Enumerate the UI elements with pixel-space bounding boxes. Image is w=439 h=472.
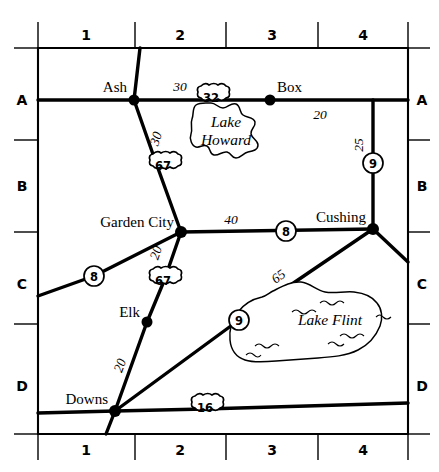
route-number-9-south: 9 bbox=[235, 314, 243, 328]
grid-row-label-right-d: D bbox=[416, 378, 428, 394]
distance-label-east-route9: 25 bbox=[351, 138, 366, 152]
lake-howard: LakeHoward bbox=[190, 103, 258, 158]
city-dot-icon-downs bbox=[109, 405, 121, 417]
route-number-8-west: 8 bbox=[90, 270, 98, 284]
grid-col-label-top-1: 1 bbox=[81, 27, 91, 43]
distance-label-gardencity-cushing: 40 bbox=[224, 212, 238, 227]
route-marker-9-north[interactable]: 9 bbox=[363, 153, 383, 173]
city-dot-icon-garden-city bbox=[175, 226, 187, 238]
distance-label-box-east: 20 bbox=[313, 107, 327, 122]
route-number-32: 32 bbox=[203, 91, 219, 105]
grid-col-label-top-2: 2 bbox=[175, 27, 185, 43]
city-label-cushing: Cushing bbox=[316, 209, 367, 225]
lake-flint: Lake Flint bbox=[230, 282, 391, 362]
grid-col-label-bottom-3: 3 bbox=[267, 442, 277, 458]
grid-row-label-left-d: D bbox=[16, 378, 28, 394]
route-marker-9-south[interactable]: 9 bbox=[229, 310, 249, 330]
route-marker-67-north[interactable]: 67 bbox=[149, 152, 181, 174]
distance-label-route9-cushing: 65 bbox=[268, 266, 288, 286]
route-number-67-south: 67 bbox=[155, 274, 171, 288]
city-label-elk: Elk bbox=[119, 304, 140, 320]
route-number-67-north: 67 bbox=[155, 159, 171, 173]
distance-label-gardencity-route67: 20 bbox=[147, 244, 166, 262]
city-label-box: Box bbox=[277, 79, 303, 95]
route-marker-8-east[interactable]: 8 bbox=[276, 221, 296, 241]
grid-row-label-right-b: B bbox=[417, 178, 428, 194]
route-marker-16[interactable]: 16 bbox=[191, 394, 223, 416]
city-label-downs: Downs bbox=[65, 391, 108, 407]
road-network bbox=[38, 48, 408, 434]
grid-row-label-right-c: C bbox=[417, 276, 427, 292]
city-elk[interactable]: Elk bbox=[119, 304, 152, 328]
city-dot-icon-ash bbox=[129, 95, 140, 106]
route-number-16: 16 bbox=[197, 401, 213, 415]
grid-row-label-left-c: C bbox=[17, 276, 27, 292]
route-marker-67-south[interactable]: 67 bbox=[149, 267, 181, 289]
distance-label-ash-lakehoward: 30 bbox=[172, 79, 187, 94]
road-map: 1 2 3 4 1 2 3 4 A B C D A B C D bbox=[0, 0, 439, 472]
road-cushing-east[interactable] bbox=[373, 229, 408, 262]
grid-col-label-top-4: 4 bbox=[358, 27, 368, 43]
grid-col-label-bottom-1: 1 bbox=[81, 442, 91, 458]
road-ash-north-spur[interactable] bbox=[134, 48, 140, 100]
city-dot-icon-cushing bbox=[367, 223, 379, 235]
grid-col-label-top-3: 3 bbox=[267, 27, 277, 43]
map-canvas: 1 2 3 4 1 2 3 4 A B C D A B C D bbox=[0, 0, 439, 472]
city-label-garden-city: Garden City bbox=[100, 214, 174, 230]
distance-label-downs-elk: 20 bbox=[110, 356, 129, 374]
grid-col-label-bottom-2: 2 bbox=[175, 442, 185, 458]
route-marker-32[interactable]: 32 bbox=[197, 84, 229, 106]
route-number-9-north: 9 bbox=[369, 157, 377, 171]
grid-row-label-left-b: B bbox=[17, 178, 28, 194]
grid-row-label-right-a: A bbox=[417, 92, 428, 108]
city-dot-icon-box bbox=[265, 95, 276, 106]
grid-col-label-bottom-4: 4 bbox=[358, 442, 368, 458]
route-number-8-east: 8 bbox=[282, 225, 290, 239]
route-marker-8-west[interactable]: 8 bbox=[84, 266, 104, 286]
city-dot-icon-elk bbox=[142, 317, 153, 328]
grid-row-label-left-a: A bbox=[17, 92, 28, 108]
city-label-ash: Ash bbox=[103, 79, 128, 95]
